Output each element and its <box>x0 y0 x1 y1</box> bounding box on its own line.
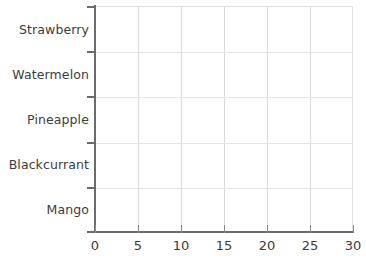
x-axis-tick <box>267 225 268 233</box>
x-axis-tick <box>224 225 225 233</box>
bars-layer <box>95 7 352 232</box>
x-axis-tick-label: 20 <box>259 238 276 253</box>
x-axis-tick-label: 15 <box>216 238 233 253</box>
x-axis-spine <box>87 231 353 233</box>
y-axis-tick-label: Mango <box>47 202 89 217</box>
y-axis-tick <box>87 187 96 189</box>
x-axis-tick-label: 5 <box>134 238 142 253</box>
y-axis-tick-label: Watermelon <box>12 66 89 81</box>
plot-area <box>95 6 353 232</box>
y-axis-tick <box>87 51 96 53</box>
y-axis-tick <box>87 142 96 144</box>
x-axis-tick-label: 10 <box>173 238 190 253</box>
y-axis-spine <box>94 5 96 233</box>
x-axis-tick <box>353 225 354 233</box>
y-axis-tick-label: Blackcurrant <box>9 157 89 172</box>
x-axis-tick-label: 25 <box>302 238 319 253</box>
x-axis-tick-label: 0 <box>91 238 99 253</box>
bar-chart-figure: StrawberryWatermelonPineappleBlackcurran… <box>0 0 366 269</box>
x-axis-tick-label: 30 <box>345 238 362 253</box>
y-axis-tick <box>87 6 96 8</box>
y-axis-tick <box>87 96 96 98</box>
y-axis-tick-label: Strawberry <box>19 21 89 36</box>
x-axis-tick <box>181 225 182 233</box>
x-axis-tick <box>95 225 96 233</box>
y-axis-tick-label: Pineapple <box>27 112 89 127</box>
x-axis-tick <box>310 225 311 233</box>
x-axis-tick <box>138 225 139 233</box>
